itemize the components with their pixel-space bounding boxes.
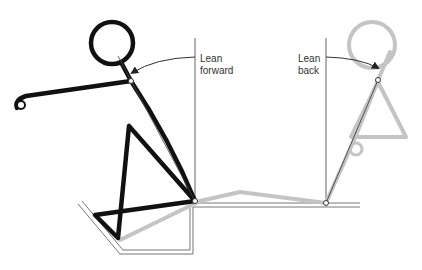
rowing-posture-diagram	[0, 0, 422, 270]
lean-back-label: Lean back	[298, 53, 320, 77]
hand-grip-icon	[17, 101, 25, 109]
lean-back-label-line1: Lean	[298, 53, 320, 65]
lean-forward-label: Lean forward	[200, 53, 233, 77]
back-trunk-line	[326, 80, 378, 203]
lean-forward-label-line2: forward	[200, 65, 233, 77]
lean-forward-figure	[16, 22, 195, 238]
lean-forward-arrow	[132, 57, 195, 73]
forward-shoulder-pivot	[129, 79, 134, 84]
lean-back-label-line2: back	[298, 65, 320, 77]
back-shoulder-pivot	[376, 78, 381, 83]
forward-hip-pivot	[193, 199, 198, 204]
lean-forward-label-line1: Lean	[200, 53, 233, 65]
back-hip-pivot	[324, 201, 329, 206]
